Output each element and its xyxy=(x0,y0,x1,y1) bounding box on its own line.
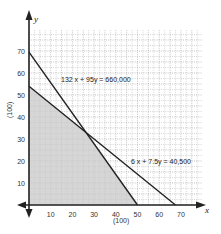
line2-label: 6 x + 7.5y = 40,500 xyxy=(131,158,191,166)
x-unit-label: (100) xyxy=(113,217,129,225)
x-axis-label: x xyxy=(204,205,209,215)
y-tick-label: 60 xyxy=(17,70,25,77)
x-tick-label: 60 xyxy=(155,211,163,218)
y-tick-label: 40 xyxy=(17,114,25,121)
line1-label: 132 x + 95y = 660,000 xyxy=(61,76,131,84)
y-tick-label: 20 xyxy=(17,158,25,165)
y-tick-label: 50 xyxy=(17,92,25,99)
x-tick-label: 20 xyxy=(69,211,77,218)
y-arrow-up-icon xyxy=(26,10,33,20)
y-axis-label: y xyxy=(33,14,38,24)
y-unit-label: (100) xyxy=(6,102,14,118)
y-arrow-down-icon xyxy=(26,209,33,218)
x-tick-label: 70 xyxy=(177,211,185,218)
y-tick-label: 70 xyxy=(17,48,25,55)
y-tick-label: 10 xyxy=(17,180,25,187)
y-tick-label: 30 xyxy=(17,136,25,143)
x-tick-label: 10 xyxy=(47,211,55,218)
x-arrow-left-icon xyxy=(17,202,26,209)
x-tick-label: 30 xyxy=(90,211,98,218)
linear-programming-chart: 1020304050607010203040506070 132 x + 95y… xyxy=(0,0,221,234)
x-tick-label: 50 xyxy=(134,211,142,218)
